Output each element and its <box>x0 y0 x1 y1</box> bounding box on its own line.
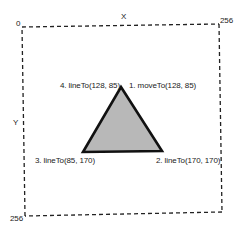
step3-label: 3. lineTo(85, 170) <box>35 156 95 165</box>
step1-label: 1. moveTo(128, 85) <box>129 81 196 90</box>
boundary-top <box>22 24 219 27</box>
step2-label: 2. lineTo(170, 170) <box>156 156 220 165</box>
y-axis-label: Y <box>13 118 18 127</box>
step4-label: 4. lineTo(128, 85) <box>60 81 120 90</box>
boundary-right <box>219 24 222 212</box>
diagram-svg <box>0 0 243 232</box>
x-axis-label: X <box>121 12 126 21</box>
triangle-shape <box>83 87 162 152</box>
origin-label: 0 <box>16 19 20 28</box>
x-max-label: 256 <box>220 16 233 25</box>
y-max-label: 256 <box>10 214 23 223</box>
boundary-left <box>22 27 25 216</box>
path-diagram: 0 X 256 Y 256 4. lineTo(128, 85) 1. move… <box>0 0 243 232</box>
boundary-bottom <box>25 212 222 216</box>
